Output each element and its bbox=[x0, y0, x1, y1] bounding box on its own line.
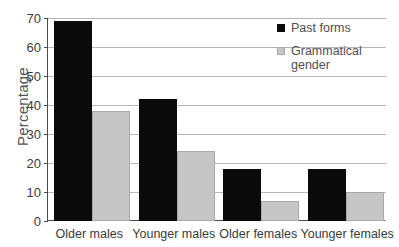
y-tick-label: 0 bbox=[34, 214, 41, 229]
bar bbox=[346, 192, 384, 221]
legend-swatch-icon bbox=[277, 24, 285, 32]
bar-chart: Percentage 010203040506070 Older malesYo… bbox=[0, 0, 399, 247]
bar bbox=[223, 169, 261, 221]
y-tick-label: 20 bbox=[27, 156, 41, 171]
y-tick-label: 30 bbox=[27, 127, 41, 142]
legend-swatch-icon bbox=[277, 47, 285, 55]
bar bbox=[54, 21, 92, 221]
legend-label: Past forms bbox=[291, 21, 351, 35]
legend-item: Grammatical gender bbox=[277, 44, 389, 72]
y-tick-mark bbox=[44, 221, 48, 222]
y-tick-label: 60 bbox=[27, 40, 41, 55]
legend-label: Grammatical gender bbox=[291, 44, 389, 72]
legend-item: Past forms bbox=[277, 21, 389, 35]
x-tick-label: Younger females bbox=[301, 227, 386, 241]
bar bbox=[308, 169, 346, 221]
y-tick-label: 40 bbox=[27, 98, 41, 113]
bar bbox=[139, 99, 177, 221]
bar-group bbox=[133, 18, 218, 221]
y-tick-label: 70 bbox=[27, 11, 41, 26]
x-tick-label: Younger males bbox=[132, 227, 217, 241]
x-tick-label: Older females bbox=[216, 227, 301, 241]
bar-group bbox=[48, 18, 133, 221]
y-tick-label: 50 bbox=[27, 69, 41, 84]
legend: Past formsGrammatical gender bbox=[277, 21, 389, 81]
bar bbox=[261, 201, 299, 221]
x-tick-label: Older males bbox=[47, 227, 132, 241]
y-tick-label: 10 bbox=[27, 185, 41, 200]
bar bbox=[92, 111, 130, 221]
bar bbox=[177, 151, 215, 221]
